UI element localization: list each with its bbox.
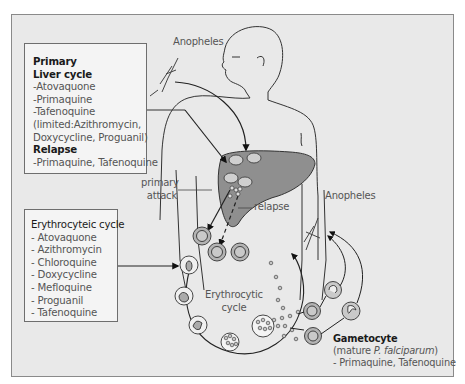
erythrocytic-heading: Erythrocyteic cycle [31, 219, 117, 232]
subtitle-prefix: (mature [333, 345, 374, 356]
species-name: P. falciparum [374, 345, 434, 356]
drug-item: - Doxycycline [31, 269, 117, 282]
anopheles-label-top: Anopheles [173, 36, 223, 47]
liver-cycle-drug-box: Primary Liver cycle -Atovaquone -Primaqu… [24, 43, 147, 174]
relapse-heading: Relapse [33, 144, 146, 157]
gametocyte-heading: Gametocyte [333, 333, 456, 345]
drug-item: -Primaquine [33, 94, 146, 107]
liver [218, 151, 315, 227]
liver-cycle-heading: Liver cycle [33, 69, 146, 82]
drug-item: - Tafenoquine [31, 307, 117, 320]
erythrocytic-cycle-label-line2: cycle [204, 302, 264, 313]
primary-attack-label-line2: attack [141, 190, 177, 201]
subtitle-suffix: ) [434, 345, 438, 356]
gametocyte-drugs: - Primaquine, Tafenoquine [333, 357, 456, 369]
gametocyte-subtitle: (mature P. falciparum) [333, 345, 456, 357]
primary-heading: Primary [33, 56, 146, 69]
drug-item: -Tafenoquine [33, 106, 146, 119]
erythrocytic-cycle-drug-box: Erythrocyteic cycle - Atovaquone - Azith… [24, 209, 118, 322]
drug-item: (limited:Azithromycin, [33, 119, 146, 132]
anopheles-label-right: Anopheles [325, 190, 375, 201]
gametocyte-label: Gametocyte (mature P. falciparum) - Prim… [333, 333, 456, 369]
primary-attack-label-line1: primary [141, 177, 177, 188]
drug-item: - Mefloquine [31, 282, 117, 295]
drug-item: - Azithromycin [31, 244, 117, 257]
mosquito-top [150, 58, 178, 96]
drug-item: - Atovaquone [31, 232, 117, 245]
drug-item: -Atovaquone [33, 81, 146, 94]
drug-item: Doxycycline, Proguanil) [33, 132, 146, 145]
drug-item: - Proguanil [31, 295, 117, 308]
drug-item: - Chloroquine [31, 257, 117, 270]
relapse-label: relapse [254, 201, 289, 212]
drug-item: -Primaquine, Tafenoquine [33, 157, 146, 170]
erythrocytic-cycle-label-line1: Erythrocytic [204, 289, 264, 300]
